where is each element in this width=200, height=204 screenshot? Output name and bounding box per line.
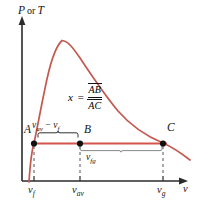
point-c-label: C bbox=[167, 122, 175, 134]
y-axis-label-or: or bbox=[27, 5, 35, 16]
x-tick-label-vg-sub: g bbox=[162, 189, 166, 198]
quality-formula: x = AB AC bbox=[68, 83, 102, 111]
x-tick-label-vav: vav bbox=[72, 185, 84, 196]
brace-ab-label: vav−vf bbox=[32, 121, 59, 131]
y-axis bbox=[19, 16, 26, 181]
formula-denominator: AC bbox=[87, 99, 102, 112]
point-c-marker bbox=[160, 140, 166, 146]
formula-numerator: AB bbox=[88, 83, 102, 98]
x-tick-label-vf-sub: f bbox=[33, 189, 35, 198]
point-a-label: A bbox=[24, 124, 31, 136]
y-axis-label: PorT bbox=[18, 5, 44, 17]
formula-variable: x bbox=[68, 91, 73, 103]
point-b-marker bbox=[77, 140, 83, 146]
x-tick-label-vav-sub: av bbox=[77, 189, 84, 198]
isotherm-curve bbox=[29, 41, 190, 183]
x-axis-label: v bbox=[183, 184, 188, 195]
brace-ab-label-sub1: av bbox=[36, 125, 43, 133]
point-b-label: B bbox=[84, 124, 91, 136]
brace-bc-label: vfg bbox=[86, 153, 96, 163]
point-a-marker bbox=[31, 140, 37, 146]
y-axis-label-t: T bbox=[37, 4, 43, 16]
x-tick-label-vf: vf bbox=[28, 185, 35, 196]
brace-bc-label-sub: fg bbox=[90, 157, 95, 165]
brace-ab-label-operator: − bbox=[45, 120, 51, 130]
y-axis-label-p: P bbox=[18, 4, 25, 16]
brace-bc bbox=[80, 146, 162, 152]
formula-fraction: AB AC bbox=[87, 83, 102, 111]
thermodynamic-diagram-figure: PorT x = AB AC A B C vav−vf vfg vf vav v… bbox=[0, 0, 200, 204]
formula-equals: = bbox=[77, 91, 84, 103]
x-tick-label-vg: vg bbox=[157, 185, 165, 196]
brace-ab-label-sub2: f bbox=[57, 125, 59, 133]
